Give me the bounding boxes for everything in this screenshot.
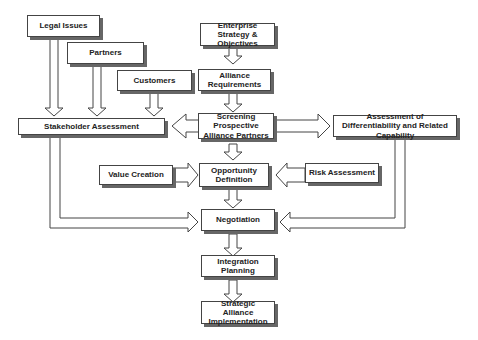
arrow-value-to-opportunity — [172, 163, 198, 187]
arrow-opportunity-to-negotiation — [224, 187, 242, 208]
arrow-requirements-to-screening — [224, 90, 242, 112]
node-partners: Partners — [67, 42, 144, 64]
arrow-legal-to-stakeholder — [45, 36, 63, 116]
node-integration-planning: Integration Planning — [201, 255, 275, 277]
arrow-negotiation-to-integration — [224, 234, 242, 256]
node-opportunity-definition: Opportunity Definition — [199, 163, 269, 187]
node-screening-partners: Screening Prospective Alliance Partners — [198, 113, 274, 139]
arrow-partners-to-stakeholder — [88, 64, 106, 116]
arrow-screening-to-differentiability — [268, 114, 330, 138]
arrow-screening-to-stakeholder — [172, 114, 200, 138]
node-enterprise-strategy: Enterprise Strategy & Objectives — [200, 23, 275, 46]
arrow-risk-to-opportunity — [276, 163, 305, 187]
node-negotiation: Negotiation — [201, 209, 275, 231]
node-differentiability: Assessment of Differentiability and Rela… — [333, 115, 457, 137]
node-legal-issues: Legal Issues — [27, 15, 100, 37]
node-risk-assessment: Risk Assessment — [305, 163, 379, 183]
node-value-creation: Value Creation — [99, 165, 173, 185]
node-alliance-implementation: Strategic Alliance Implementation — [201, 301, 275, 324]
node-stakeholder-assessment: Stakeholder Assessment — [18, 118, 165, 135]
node-customers: Customers — [117, 70, 192, 91]
arrow-customers-to-stakeholder — [145, 90, 163, 116]
arrow-screening-to-opportunity — [224, 144, 242, 160]
node-alliance-requirements: Alliance Requirements — [198, 69, 271, 91]
